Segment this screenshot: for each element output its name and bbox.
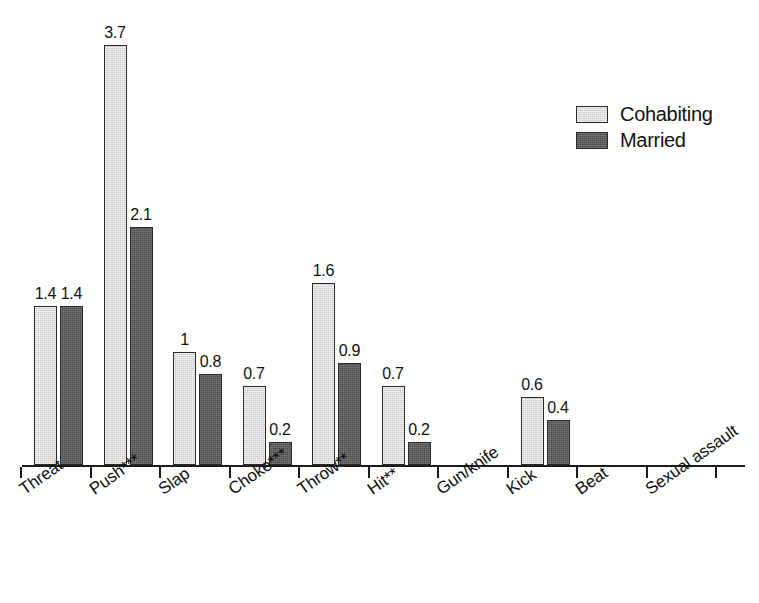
x-axis-tick [576, 467, 578, 478]
value-label-cohabiting: 1 [159, 331, 210, 349]
value-label-married: 0.9 [324, 342, 375, 360]
x-axis-tick [507, 467, 509, 478]
bar-cohabiting [34, 306, 57, 465]
plot-area: 1.41.43.72.110.80.70.21.60.90.70.20.60.4… [0, 0, 759, 603]
bar-married [130, 227, 153, 465]
value-label-married: 0.4 [533, 399, 584, 417]
value-label-cohabiting: 0.6 [507, 376, 558, 394]
legend-label-cohabiting: Cohabiting [620, 104, 713, 124]
value-label-cohabiting: 0.7 [368, 365, 419, 383]
x-axis-tick [715, 467, 717, 478]
legend-swatch-cohabiting-icon [576, 106, 608, 123]
category-label: Sexual assault [642, 421, 742, 499]
value-label-married: 1.4 [46, 285, 97, 303]
bar-married [547, 420, 570, 465]
x-axis-tick [646, 467, 648, 478]
chart-legend: Cohabiting Married [576, 101, 751, 153]
legend-label-married: Married [620, 130, 686, 150]
x-axis-tick [437, 467, 439, 478]
value-label-married: 2.1 [116, 206, 167, 224]
bar-married [408, 442, 431, 465]
bar-married [60, 306, 83, 465]
value-label-cohabiting: 0.7 [229, 365, 280, 383]
value-label-married: 0.2 [255, 421, 306, 439]
legend-item-cohabiting: Cohabiting [576, 101, 751, 127]
x-axis-tick [229, 467, 231, 478]
bar-cohabiting [104, 45, 127, 465]
bar-cohabiting [312, 283, 335, 465]
legend-swatch-married-icon [576, 132, 608, 149]
value-label-cohabiting: 1.6 [298, 262, 349, 280]
value-label-cohabiting: 3.7 [90, 24, 141, 42]
value-label-married: 0.2 [394, 421, 445, 439]
bar-chart-figure: 1.41.43.72.110.80.70.21.60.90.70.20.60.4… [0, 0, 759, 603]
category-label: Gun/knife [433, 442, 503, 499]
x-axis-tick [159, 467, 161, 478]
x-axis-tick [368, 467, 370, 478]
x-axis-tick [90, 467, 92, 478]
bar-married [199, 374, 222, 465]
x-axis-tick [20, 467, 22, 478]
legend-item-married: Married [576, 127, 751, 153]
x-axis-tick [298, 467, 300, 478]
